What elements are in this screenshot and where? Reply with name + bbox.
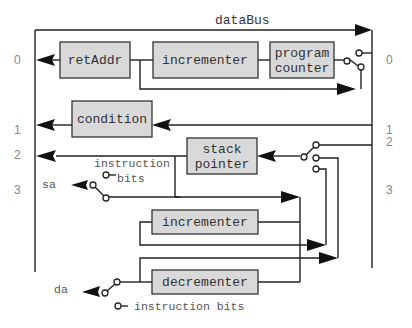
instruction-bits-top-label-2: bits [117, 172, 145, 185]
stack-pointer-label-2: pointer [195, 157, 250, 172]
incrementer-top-label: incrementer [162, 53, 248, 68]
instruction-bits-bottom-label: instruction bits [134, 300, 244, 313]
sp-mux-node-c [313, 166, 319, 172]
port-left-3: 3 [14, 183, 21, 197]
sa-arrow-icon [71, 180, 88, 190]
stack-pointer-label-1: stack [202, 142, 241, 157]
retaddr-label: retAddr [68, 53, 123, 68]
program-counter-label-1: program [275, 46, 330, 61]
sa-label: sa [42, 178, 56, 191]
program-counter-label-2: counter [275, 61, 330, 76]
pc-mux-arrow-icon [337, 83, 356, 95]
pc-mux-node-a [356, 50, 362, 56]
pc-mux-node-b [358, 64, 364, 70]
port-right-3: 3 [386, 183, 393, 197]
sp-mux-switch[interactable] [306, 147, 314, 155]
sp-inc-arrow-icon [281, 191, 300, 203]
cpu-datapath-diagram: dataBus 0 1 2 3 0 1 2 3 retAddr incremen… [0, 0, 412, 328]
port-left-0: 0 [14, 53, 21, 67]
incrementer-mid-label: incrementer [162, 215, 248, 230]
instruction-bits-top-label-1: instruction [94, 157, 170, 170]
sp-mux-b-wire [319, 158, 338, 258]
databus-arrow-icon [355, 24, 372, 36]
instruction-bits-top-node [103, 172, 109, 178]
da-arrow-icon [82, 286, 100, 297]
instruction-bits-bottom-node [115, 303, 121, 309]
sp-out-arrow-icon [36, 150, 56, 162]
port-right-0: 0 [386, 53, 393, 67]
sa-mux-switch[interactable] [95, 187, 104, 196]
databus-label: dataBus [215, 13, 270, 28]
pc-mux-switch[interactable] [349, 59, 358, 66]
port-left-1: 1 [14, 123, 21, 137]
da-label: da [54, 283, 68, 296]
port-left-2: 2 [14, 148, 21, 162]
da-mux-switch[interactable] [107, 284, 115, 291]
port-right-2: 2 [386, 135, 393, 149]
sp-mux-node-b [313, 155, 319, 161]
decrementer-label: decrementer [162, 275, 248, 290]
sp-mux-c-wire [319, 169, 326, 245]
sp-tap-wire [175, 156, 180, 197]
condition-label: condition [77, 112, 147, 127]
inc-mid-arrow-icon [307, 239, 326, 251]
dec-arrow-icon [319, 252, 338, 264]
